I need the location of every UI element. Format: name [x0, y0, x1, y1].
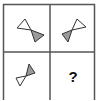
- question-mark: ?: [68, 68, 77, 85]
- gray-triangle-icon: [62, 30, 72, 42]
- cell-bottom-right: ?: [68, 68, 77, 85]
- white-triangle-icon: [72, 19, 86, 30]
- cell-top-right-bowtie: [62, 19, 86, 42]
- gray-triangle-icon: [26, 64, 35, 76]
- white-triangle-icon: [16, 76, 26, 86]
- puzzle-grid: ?: [0, 0, 99, 100]
- gray-triangle-icon: [31, 30, 44, 42]
- cell-bottom-left-bowtie: [16, 64, 35, 86]
- grid-lines: [4, 5, 95, 101]
- cell-top-left-bowtie: [17, 19, 44, 42]
- white-triangle-icon: [17, 19, 31, 30]
